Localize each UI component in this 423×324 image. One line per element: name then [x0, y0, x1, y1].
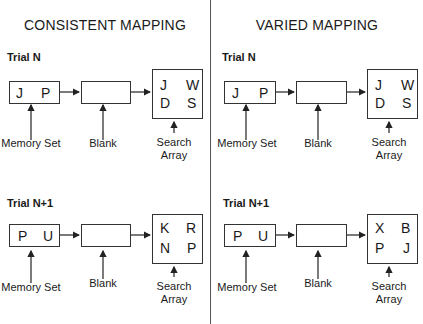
- search-letter: J: [403, 241, 410, 255]
- search-letter: X: [375, 221, 384, 235]
- memory-set-box: P U: [224, 224, 276, 247]
- memory-letter: P: [18, 229, 27, 243]
- memory-letter: P: [233, 229, 242, 243]
- search-letter: K: [160, 221, 169, 235]
- trial-label: Trial N: [7, 51, 41, 63]
- trial-label: Trial N: [222, 51, 256, 63]
- search-letter: R: [186, 221, 196, 235]
- memory-letter: P: [259, 86, 268, 100]
- search-letter: P: [375, 241, 384, 255]
- search-letter: S: [187, 96, 196, 110]
- memory-set-label: Memory Set: [215, 281, 279, 294]
- blank-box: [81, 81, 131, 104]
- search-letter: B: [401, 221, 410, 235]
- memory-letter: J: [232, 86, 239, 100]
- memory-set-label: Memory Set: [0, 137, 62, 150]
- search-array-box: J W D S: [367, 69, 418, 119]
- search-array-label: Search Array: [154, 136, 194, 162]
- blank-label: Blank: [298, 277, 338, 290]
- search-letter: J: [160, 78, 167, 92]
- search-array-box: J W D S: [152, 69, 203, 119]
- panel-heading-consistent: CONSISTENT MAPPING: [0, 17, 210, 33]
- memory-set-label: Memory Set: [0, 281, 62, 294]
- search-letter: S: [402, 96, 411, 110]
- search-array-label: Search Array: [369, 280, 409, 306]
- memory-letter: J: [16, 86, 23, 100]
- memory-set-box: P U: [9, 224, 60, 247]
- memory-set-box: J P: [224, 81, 276, 104]
- blank-box: [296, 81, 347, 104]
- trial-label: Trial N+1: [223, 197, 269, 209]
- search-letter: W: [401, 78, 414, 92]
- blank-label: Blank: [83, 277, 123, 290]
- memory-letter: P: [41, 86, 50, 100]
- search-letter: J: [375, 78, 382, 92]
- memory-letter: U: [43, 229, 53, 243]
- search-array-box: K R N P: [152, 214, 203, 264]
- search-array-label: Search Array: [369, 136, 409, 162]
- panel-heading-varied: VARIED MAPPING: [211, 17, 423, 33]
- memory-set-label: Memory Set: [215, 137, 279, 150]
- search-letter: W: [186, 78, 199, 92]
- search-letter: P: [187, 241, 196, 255]
- search-array-label: Search Array: [154, 280, 194, 306]
- search-letter: D: [160, 96, 170, 110]
- arrows-layer: [0, 0, 423, 324]
- trial-label: Trial N+1: [7, 197, 53, 209]
- search-array-box: X B P J: [367, 214, 418, 264]
- blank-box: [81, 224, 131, 247]
- blank-label: Blank: [83, 137, 123, 150]
- memory-set-box: J P: [9, 81, 60, 104]
- memory-letter: U: [258, 229, 268, 243]
- search-letter: D: [375, 96, 385, 110]
- blank-box: [296, 224, 347, 247]
- blank-label: Blank: [298, 137, 338, 150]
- search-letter: N: [160, 241, 170, 255]
